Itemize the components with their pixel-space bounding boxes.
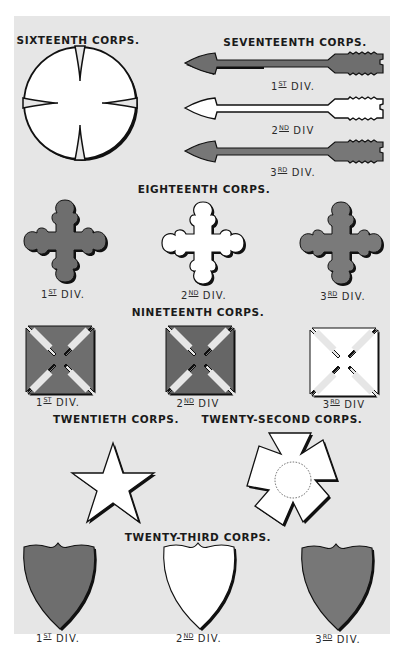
twenty-third-3rd-div-label: 3RD DIV. (315, 633, 361, 645)
eighteenth-1st-div-label: 1ST DIV. (41, 288, 85, 300)
corps-title-nineteenth: NINETEENTH CORPS. (132, 306, 265, 318)
seventeenth-corps-1st-div-arrow-icon (183, 50, 388, 78)
eighteenth-corps-2nd-div-trefoil-cross-icon (158, 198, 248, 288)
twenty-third-2nd-div-label: 2ND DIV. (176, 632, 222, 644)
corps-title-seventeenth: SEVENTEENTH CORPS. (223, 36, 367, 48)
corps-title-twenty-second: TWENTY-SECOND CORPS. (202, 413, 363, 425)
corps-title-eighteenth: EIGHTEENTH CORPS. (138, 183, 271, 195)
nineteenth-corps-3rd-div-maltese-cross-icon (304, 322, 384, 402)
eighteenth-corps-3rd-div-trefoil-cross-icon (296, 198, 386, 288)
seventeenth-corps-2nd-div-arrow-icon (183, 95, 388, 123)
corps-title-twenty-third: TWENTY-THIRD CORPS. (125, 531, 271, 543)
seventeenth-2nd-div-label: 2ND DIV (272, 124, 315, 136)
eighteenth-2nd-div-label: 2ND DIV. (181, 289, 227, 301)
twentieth-corps-star-icon (68, 440, 158, 530)
nineteenth-corps-1st-div-maltese-cross-icon (20, 320, 100, 400)
nineteenth-3rd-div-label: 3RD DIV (323, 398, 366, 410)
corps-title-twentieth: TWENTIETH CORPS. (53, 413, 179, 425)
sixteenth-corps-circle-cross-icon (22, 45, 142, 165)
eighteenth-3rd-div-label: 3RD DIV. (320, 290, 366, 302)
seventeenth-1st-div-label: 1ST DIV. (271, 80, 315, 92)
twenty-third-corps-2nd-div-shield-icon (160, 543, 242, 633)
eighteenth-corps-1st-div-trefoil-cross-icon (20, 196, 110, 286)
twenty-second-corps-cross-icon (245, 430, 345, 530)
twenty-third-1st-div-label: 1ST DIV. (36, 632, 80, 644)
twenty-third-corps-1st-div-shield-icon (20, 543, 102, 633)
seventeenth-corps-3rd-div-arrow-icon (183, 138, 388, 166)
nineteenth-corps-2nd-div-maltese-cross-icon (160, 320, 240, 400)
twenty-third-corps-3rd-div-shield-icon (298, 544, 380, 634)
seventeenth-3rd-div-label: 3RD DIV. (270, 166, 316, 178)
nineteenth-2nd-div-label: 2ND DIV (177, 397, 220, 409)
nineteenth-1st-div-label: 1ST DIV. (36, 396, 80, 408)
